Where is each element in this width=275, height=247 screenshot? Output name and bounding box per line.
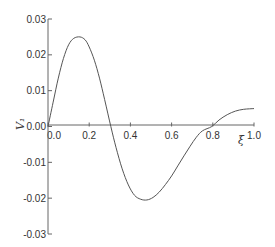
x-tick-label: 1.0 [247, 130, 261, 141]
y-tick-label: 0.03 [27, 14, 47, 25]
y-tick-label: 0.02 [27, 49, 47, 60]
y-tick-label: 0.01 [27, 85, 47, 96]
x-tick-label: 0.6 [165, 130, 179, 141]
x-tick-label: 0.8 [206, 130, 220, 141]
x-axis-label: ξ [238, 134, 245, 147]
x-tick-label: 0.4 [123, 130, 137, 141]
y-axis-label: V₁ [14, 118, 27, 130]
chart: 0.030.020.010.00-0.01-0.02-0.03 0.00.20.… [0, 0, 275, 247]
y-tick-label: -0.03 [23, 229, 46, 240]
x-tick-label: 0.2 [82, 130, 96, 141]
y-tick-label: -0.02 [23, 193, 46, 204]
y-tick-label: 0.00 [27, 121, 47, 132]
series-v1-line [48, 37, 254, 200]
y-tick-label: -0.01 [23, 157, 46, 168]
x-tick-label: 0.0 [47, 130, 61, 141]
